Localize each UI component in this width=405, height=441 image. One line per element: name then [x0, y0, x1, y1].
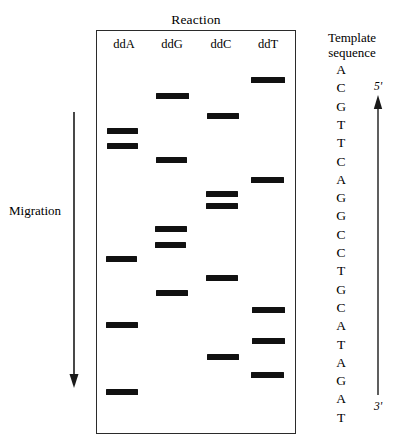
gel-band-ddc [207, 354, 239, 360]
gel-band-ddt [251, 372, 284, 378]
template-base: C [331, 80, 351, 96]
template-title-line1: Template [315, 30, 389, 45]
gel-band-ddc [206, 191, 238, 197]
gel-band-ddg [156, 93, 189, 99]
gel-band-ddg [155, 242, 186, 248]
sanger-gel-figure: Reaction ddAddGddCddT Migration Template… [0, 0, 405, 441]
gel-band-dda [107, 128, 138, 134]
template-base: G [331, 282, 351, 298]
reaction-title: Reaction [96, 12, 296, 28]
template-base: G [331, 190, 351, 206]
gel-band-dda [106, 322, 138, 328]
gel-band-ddt [252, 307, 285, 313]
lane-header-ddg: ddG [149, 37, 195, 52]
gel-band-ddg [156, 157, 187, 163]
gel-band-ddt [252, 338, 285, 344]
gel-band-dda [106, 256, 137, 262]
lane-header-dda: ddA [101, 37, 147, 52]
template-base: T [331, 263, 351, 279]
gel-band-ddc [206, 275, 238, 281]
template-base: T [331, 117, 351, 133]
gel-band-dda [107, 143, 138, 149]
gel-band-dda [106, 389, 138, 395]
template-base: T [331, 135, 351, 151]
label-3-prime: 3' [367, 400, 389, 412]
template-base: C [331, 300, 351, 316]
template-base: G [331, 373, 351, 389]
template-base: A [331, 172, 351, 188]
label-5-prime: 5' [367, 80, 389, 92]
lane-header-ddc: ddC [198, 37, 244, 52]
template-sequence-title: Template sequence [315, 30, 389, 60]
template-base: C [331, 245, 351, 261]
template-base: G [331, 99, 351, 115]
template-base: T [331, 410, 351, 426]
lane-header-ddt: ddT [245, 37, 291, 52]
template-base: T [331, 337, 351, 353]
gel-band-ddc [206, 203, 238, 209]
template-base: A [331, 318, 351, 334]
gel-band-ddt [251, 77, 285, 83]
template-base: A [331, 391, 351, 407]
gel-band-ddg [156, 290, 188, 296]
migration-label: Migration [2, 203, 68, 219]
polarity-arrow-icon [365, 95, 391, 395]
template-base: C [331, 154, 351, 170]
template-base: G [331, 208, 351, 224]
template-base: C [331, 227, 351, 243]
template-base: A [331, 62, 351, 78]
gel-band-ddg [155, 226, 187, 232]
template-base: A [331, 355, 351, 371]
template-title-line2: sequence [315, 45, 389, 60]
gel-band-ddc [207, 113, 239, 119]
migration-arrow-icon [60, 112, 88, 388]
gel-band-ddt [251, 177, 284, 183]
